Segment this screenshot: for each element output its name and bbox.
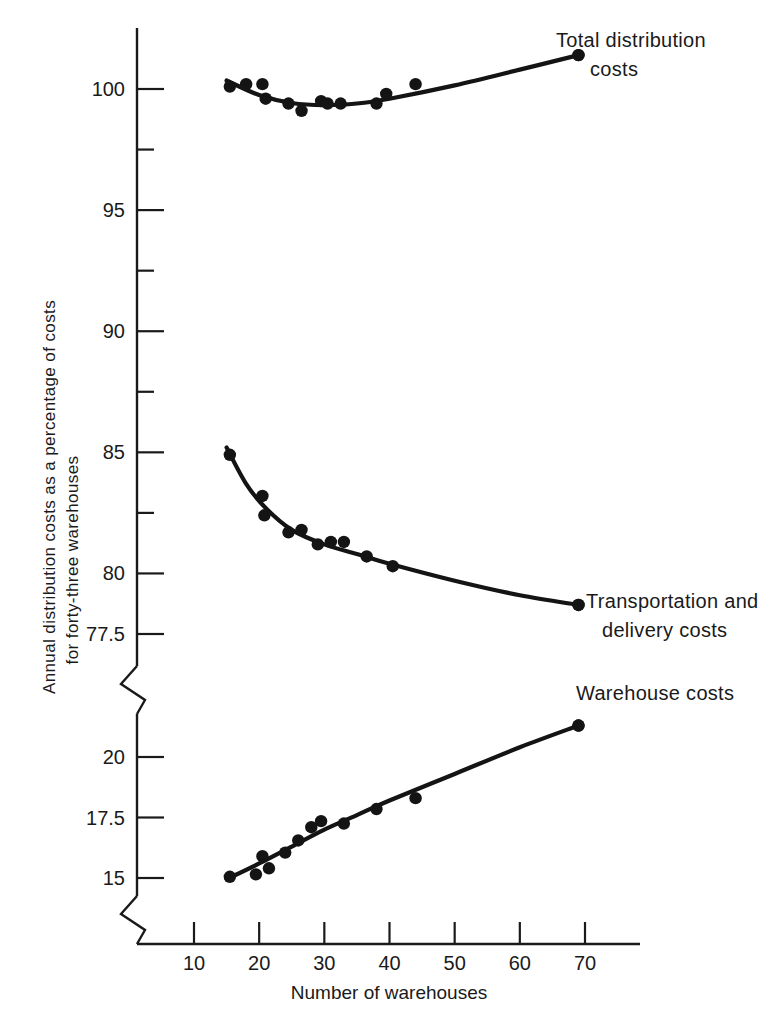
data-point <box>370 97 382 109</box>
y-tick-label: 20 <box>103 746 125 768</box>
y-tick-label: 95 <box>103 199 125 221</box>
data-point <box>409 78 421 90</box>
x-axis-title: Number of warehouses <box>291 982 487 1003</box>
x-tick-label: 50 <box>444 952 466 974</box>
series-label-transportation-line1: Transportation and <box>586 590 759 612</box>
data-point <box>224 449 236 461</box>
x-tick-label: 40 <box>378 952 400 974</box>
y-axis-lower-ticks: 2017.515 <box>86 746 164 889</box>
data-point <box>312 538 324 550</box>
data-point <box>256 490 268 502</box>
y-axis-title-line1: Annual distribution costs as a percentag… <box>40 300 59 694</box>
series-curve <box>227 55 579 105</box>
data-point <box>224 871 236 883</box>
data-point <box>263 862 275 874</box>
y-tick-label: 100 <box>92 78 125 100</box>
series-curve <box>227 726 579 880</box>
data-point <box>295 105 307 117</box>
y-axis-title-line2: for forty-three warehouses <box>63 456 82 665</box>
data-point <box>256 78 268 90</box>
x-tick-label: 10 <box>183 952 205 974</box>
data-point <box>370 803 382 815</box>
series-end-marker <box>572 599 584 611</box>
x-tick-label: 60 <box>509 952 531 974</box>
series-label-total-distribution-line2: costs <box>590 58 638 80</box>
y-tick-label: 90 <box>103 320 125 342</box>
series-label-total-distribution-line1: Total distribution <box>556 29 706 51</box>
x-axis-ticks: 10203040506070 <box>183 922 596 974</box>
data-point <box>338 817 350 829</box>
data-point <box>292 834 304 846</box>
y-tick-label: 80 <box>103 562 125 584</box>
data-point <box>256 850 268 862</box>
x-tick-label: 70 <box>574 952 596 974</box>
data-point <box>409 792 421 804</box>
series-end-marker <box>572 719 584 731</box>
data-point <box>321 97 333 109</box>
series-annotations: Total distribution costs Transportation … <box>556 29 759 704</box>
data-point <box>315 815 327 827</box>
series-0 <box>224 49 585 117</box>
x-tick-label: 30 <box>313 952 335 974</box>
data-point <box>258 509 270 521</box>
series-label-warehouse-costs: Warehouse costs <box>576 682 734 704</box>
axis-titles: Number of warehouses Annual distribution… <box>40 300 487 1003</box>
data-point <box>279 846 291 858</box>
chart-container: 1009590858077.5 2017.515 10203040506070 … <box>0 0 771 1024</box>
y-tick-label: 17.5 <box>86 807 125 829</box>
data-point <box>338 536 350 548</box>
data-point <box>250 868 262 880</box>
y-tick-label: 77.5 <box>86 623 125 645</box>
series-curve <box>227 447 579 604</box>
leader-lines <box>572 49 584 732</box>
y-tick-label: 85 <box>103 441 125 463</box>
data-point <box>334 97 346 109</box>
y-axis-upper-ticks: 1009590858077.5 <box>86 78 164 645</box>
distribution-costs-chart: 1009590858077.5 2017.515 10203040506070 … <box>0 0 771 1024</box>
data-point <box>259 92 271 104</box>
series-1 <box>224 447 585 611</box>
data-point <box>387 560 399 572</box>
series-2 <box>224 719 585 883</box>
y-tick-label: 15 <box>103 867 125 889</box>
x-tick-label: 20 <box>248 952 270 974</box>
series-label-transportation-line2: delivery costs <box>602 619 727 641</box>
data-point <box>240 78 252 90</box>
data-point <box>325 536 337 548</box>
data-point <box>380 88 392 100</box>
data-point <box>295 524 307 536</box>
data-point <box>224 80 236 92</box>
y-axis-break-upper <box>121 666 145 714</box>
y-axis-break-lower <box>121 896 145 944</box>
series-layer <box>224 49 585 883</box>
data-point <box>282 97 294 109</box>
data-point <box>282 526 294 538</box>
data-point <box>360 550 372 562</box>
